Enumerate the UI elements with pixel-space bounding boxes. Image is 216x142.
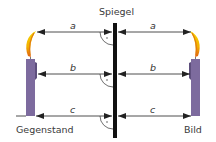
flame-icon [190, 31, 200, 57]
candle-body [191, 59, 200, 116]
distance-label-a-left: a [70, 21, 76, 31]
object-candle [26, 31, 37, 116]
distance-label-b-right: b [150, 63, 156, 73]
right-angle-marks [100, 32, 113, 129]
mirror-reflection-diagram: Spiegel a a b b c c Gegenstand Bild [0, 0, 216, 142]
mirror-label: Spiegel [99, 7, 134, 17]
diagram-canvas [0, 0, 216, 142]
distance-label-c-left: c [70, 105, 75, 115]
mirror [113, 23, 117, 138]
image-label: Bild [184, 125, 202, 135]
candle-body [26, 59, 35, 116]
distance-label-c-right: c [150, 105, 155, 115]
image-candle [189, 31, 200, 116]
object-label: Gegenstand [16, 125, 74, 135]
flame-icon [26, 31, 36, 57]
distance-label-a-right: a [150, 21, 156, 31]
distance-label-b-left: b [70, 63, 76, 73]
